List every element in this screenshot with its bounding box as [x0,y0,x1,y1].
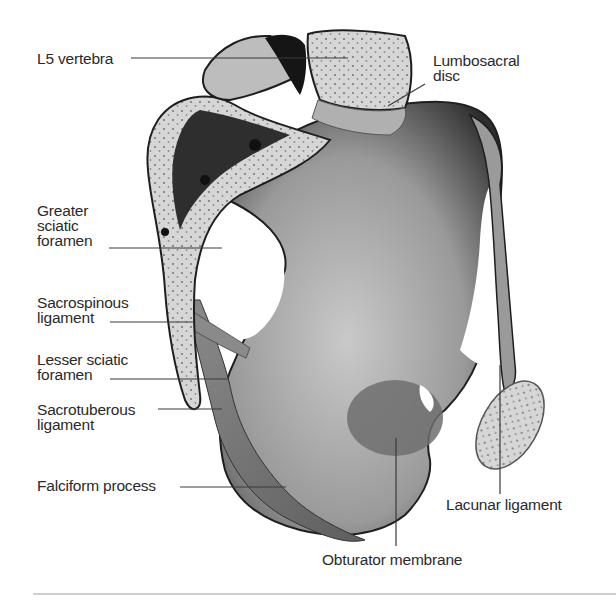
label-sacrospinous-ligament: Sacrospinous ligament [37,295,129,325]
label-lumbosacral-disc: Lumbosacral disc [433,53,520,83]
label-l5-vertebra: L5 vertebra [37,51,113,66]
label-lacunar-ligament: Lacunar ligament [446,497,562,512]
bottom-divider [33,593,616,595]
label-greater-sciatic-foramen: Greater sciatic foramen [37,203,92,248]
label-lesser-sciatic-foramen: Lesser sciatic foramen [37,352,128,382]
label-obturator-membrane: Obturator membrane [322,552,462,567]
label-sacrotuberous-ligament: Sacrotuberous ligament [37,402,135,432]
label-falciform-process: Falciform process [37,478,156,493]
leader-lumbosacral-disc [388,84,425,106]
pelvis-illustration: L5 vertebra Lumbosacral disc Greater sci… [0,0,616,605]
